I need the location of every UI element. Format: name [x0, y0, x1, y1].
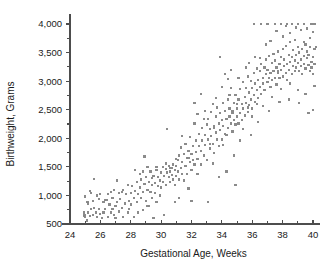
data-point [96, 216, 98, 218]
data-point [165, 162, 167, 164]
data-point [248, 62, 250, 64]
data-point [207, 201, 209, 203]
x-tick-label: 36 [247, 229, 258, 240]
data-point [300, 58, 302, 60]
data-point [122, 189, 124, 191]
data-point [83, 211, 85, 213]
data-point [227, 78, 229, 80]
x-tick-label: 24 [65, 229, 76, 240]
data-point [280, 69, 282, 71]
data-point [114, 217, 116, 219]
data-point [268, 55, 270, 57]
data-point [291, 73, 293, 75]
data-point [234, 94, 236, 96]
data-point [184, 143, 186, 145]
data-point [190, 169, 192, 171]
data-point [181, 173, 183, 175]
data-point [280, 23, 282, 25]
data-point [201, 139, 203, 141]
data-point [168, 176, 170, 178]
data-point [289, 61, 291, 63]
data-point [237, 77, 239, 79]
data-point [222, 144, 224, 146]
data-point [196, 113, 198, 115]
y-tick-label: 2,000 [38, 133, 62, 144]
data-point [215, 115, 217, 117]
data-point [234, 123, 236, 125]
data-point [180, 167, 182, 169]
data-point [225, 170, 227, 172]
data-point [145, 200, 147, 202]
data-point [130, 192, 132, 194]
data-point [303, 55, 305, 57]
data-point [193, 102, 195, 104]
data-point [213, 152, 215, 154]
data-point [241, 103, 243, 105]
data-point [196, 173, 198, 175]
data-point [313, 48, 315, 50]
data-point [206, 123, 208, 125]
data-point [160, 186, 162, 188]
data-point [155, 166, 157, 168]
data-point [154, 192, 156, 194]
data-point [230, 87, 232, 89]
data-point [114, 205, 116, 207]
data-point [231, 110, 233, 112]
data-point [297, 23, 299, 25]
data-point [99, 193, 101, 195]
data-point [288, 54, 290, 56]
x-tick-label: 32 [186, 229, 197, 240]
data-point [134, 190, 136, 192]
data-point [200, 150, 202, 152]
data-point [312, 73, 314, 75]
data-point [213, 125, 215, 127]
data-point [257, 79, 259, 81]
data-point [171, 174, 173, 176]
data-point [168, 165, 170, 167]
data-point [298, 102, 300, 104]
data-point [174, 184, 176, 186]
data-point [298, 70, 300, 72]
data-point [286, 63, 288, 65]
data-point [262, 77, 264, 79]
data-point [269, 40, 271, 42]
data-point [259, 86, 261, 88]
data-point [295, 66, 297, 68]
data-point [166, 171, 168, 173]
data-point [236, 107, 238, 109]
data-point [244, 114, 246, 116]
data-point [136, 181, 138, 183]
data-point [254, 82, 256, 84]
x-tick-label: 40 [308, 229, 319, 240]
data-point [84, 216, 86, 218]
data-point [237, 98, 239, 100]
scatter-chart-figure: 5001,0001,5002,0002,5003,0003,5004,00024… [0, 0, 329, 273]
data-point [152, 217, 154, 219]
data-point [254, 56, 256, 58]
data-point [312, 31, 314, 33]
data-point [186, 173, 188, 175]
data-point [245, 66, 247, 68]
data-point [125, 193, 127, 195]
data-point [165, 184, 167, 186]
data-point [98, 198, 100, 200]
data-point [121, 191, 123, 193]
data-point [307, 54, 309, 56]
data-point [269, 72, 271, 74]
data-point [140, 197, 142, 199]
data-point [175, 158, 177, 160]
data-point [265, 43, 267, 45]
data-point [248, 91, 250, 93]
data-point [283, 58, 285, 60]
data-point [219, 56, 221, 58]
data-point [212, 143, 214, 145]
data-point [219, 112, 221, 114]
data-point [110, 191, 112, 193]
data-point [151, 184, 153, 186]
data-point [210, 111, 212, 113]
data-point [294, 59, 296, 61]
data-point [203, 118, 205, 120]
data-point [169, 167, 171, 169]
data-point [256, 67, 258, 69]
data-point [274, 77, 276, 79]
